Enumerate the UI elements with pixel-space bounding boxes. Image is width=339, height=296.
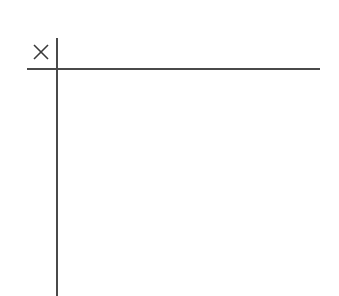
close-icon[interactable] bbox=[33, 44, 49, 60]
horizontal-divider-line bbox=[27, 68, 320, 70]
vertical-divider-line bbox=[56, 38, 58, 296]
